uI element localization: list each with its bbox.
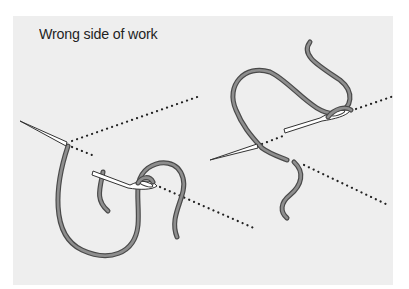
stitch-illustration — [0, 0, 409, 289]
dotted-line-right-c — [304, 165, 390, 206]
dotted-line-right-b — [356, 96, 394, 109]
right-needle-tip — [210, 144, 258, 160]
dotted-line-left-lower-a — [72, 147, 92, 155]
fabric-dotted-lines — [72, 96, 394, 229]
dotted-line-right-a — [262, 136, 283, 144]
left-needle-1 — [20, 121, 67, 146]
dotted-line-left-upper — [72, 96, 200, 141]
right-needle-eye-section — [284, 109, 350, 133]
left-thread — [58, 146, 184, 256]
